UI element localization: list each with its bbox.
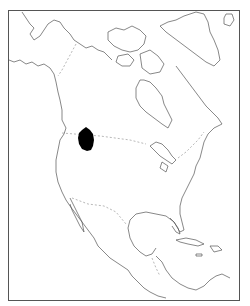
us-mexico-border <box>72 198 126 224</box>
mexico-guatemala-border <box>152 258 160 276</box>
cuba <box>176 238 204 246</box>
range-highlight <box>78 127 94 151</box>
hudson-bay <box>136 80 172 128</box>
jamaica <box>196 254 202 256</box>
hispaniola <box>210 246 222 252</box>
great-lakes <box>150 142 176 172</box>
arctic-archipelago <box>108 26 164 74</box>
iceland <box>224 14 234 26</box>
alaska-coastline <box>9 60 166 298</box>
central-america <box>156 256 230 290</box>
alaska-north-coast <box>22 12 112 60</box>
alaska-canada-border <box>58 44 76 76</box>
greenland <box>160 12 220 66</box>
north-america-map <box>0 0 250 306</box>
